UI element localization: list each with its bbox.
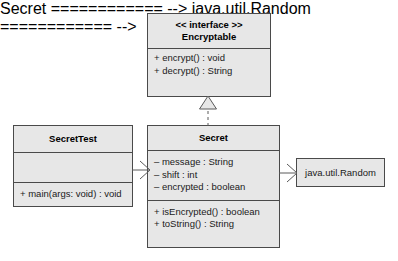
class-name-java-util-random: java.util.Random xyxy=(305,167,376,178)
class-name-encryptable: Encryptable xyxy=(154,31,264,43)
attribute-line: – encrypted : boolean xyxy=(154,181,273,194)
method-line: + isEncrypted() : boolean xyxy=(154,206,273,219)
connector-realization-secret-encryptable xyxy=(196,95,220,127)
uml-class-diagram-canvas: << interface >> Encryptable + encrypt() … xyxy=(0,0,398,261)
class-box-encryptable[interactable]: << interface >> Encryptable + encrypt() … xyxy=(147,13,271,97)
class-name-secret-test: SecretTest xyxy=(20,133,126,145)
class-title-secret-test: SecretTest xyxy=(14,126,132,152)
class-attributes-secret-test xyxy=(14,152,132,182)
class-box-secret-test[interactable]: SecretTest + main(args: void) : void xyxy=(13,125,133,207)
connector-association-secrettest-secret xyxy=(130,156,152,184)
class-methods-encryptable: + encrypt() : void + decrypt() : String xyxy=(148,48,270,81)
attribute-line: – shift : int xyxy=(154,169,273,182)
method-line: + main(args: void) : void xyxy=(20,188,126,201)
class-methods-secret: + isEncrypted() : boolean + toString() :… xyxy=(148,200,279,237)
method-line: + toString() : String xyxy=(154,218,273,231)
class-box-java-util-random[interactable]: java.util.Random xyxy=(296,158,385,187)
class-box-secret[interactable]: Secret – message : String – shift : int … xyxy=(147,125,280,248)
class-methods-secret-test: + main(args: void) : void xyxy=(14,182,132,207)
attribute-line: – message : String xyxy=(154,156,273,169)
class-attributes-secret: – message : String – shift : int – encry… xyxy=(148,150,279,200)
class-title-encryptable: << interface >> Encryptable xyxy=(148,14,270,48)
class-name-secret: Secret xyxy=(154,132,273,144)
class-title-secret: Secret xyxy=(148,126,279,150)
hollow-triangle-arrowhead-icon xyxy=(200,96,217,109)
connector-association-secret-javautilrandom xyxy=(277,159,299,187)
class-stereotype-encryptable: << interface >> xyxy=(154,19,264,31)
method-line: + encrypt() : void xyxy=(154,52,264,65)
method-line: + decrypt() : String xyxy=(154,65,264,78)
